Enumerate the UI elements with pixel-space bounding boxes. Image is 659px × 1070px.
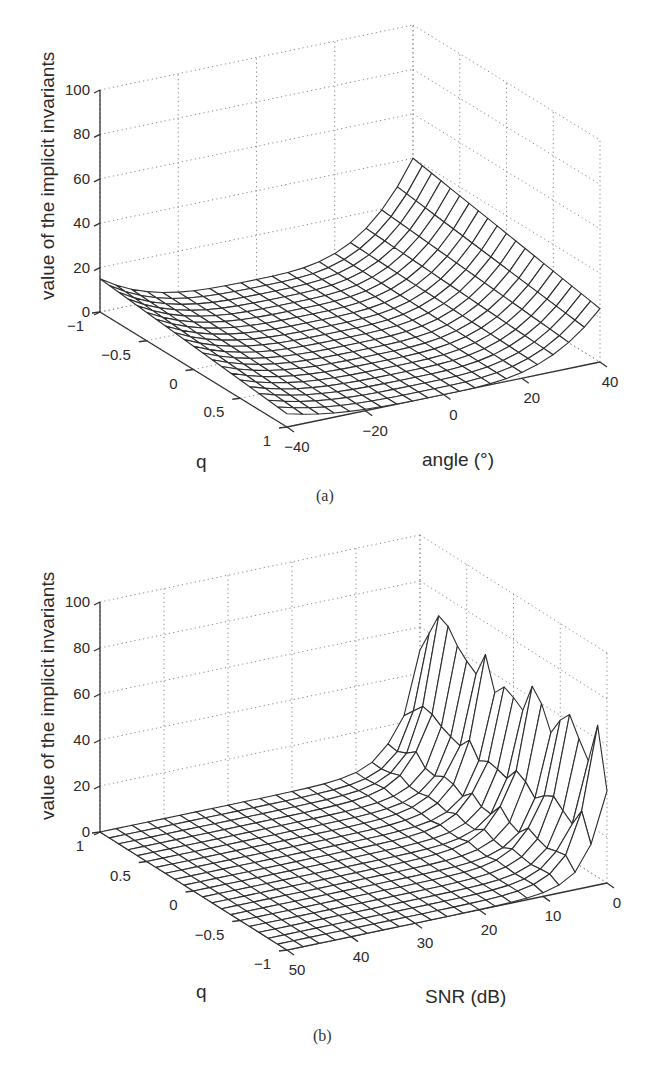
figure-b: 02040608010010.50−0.5−150403020100 value… <box>0 530 659 1070</box>
z-tick-label: 40 <box>73 214 90 231</box>
q-axis-title: q <box>196 981 207 1002</box>
q-tick-label: 0.5 <box>110 867 131 884</box>
q-tick-label: −1 <box>254 955 271 972</box>
q-tick-label: −0.5 <box>195 926 225 943</box>
q-tick-label: −1 <box>67 317 84 334</box>
x-tick-label: 30 <box>417 934 434 951</box>
figure-a: 020406080100−1−0.500.51−40−2002040 value… <box>0 0 659 530</box>
z-axis-title: value of the implicit invariants <box>37 52 58 300</box>
x-tick-label: −20 <box>363 422 388 439</box>
caption-a: (a) <box>316 487 334 505</box>
z-tick-label: 60 <box>73 170 90 187</box>
x-tick-label: 0 <box>613 894 621 911</box>
surface-plot-b: 02040608010010.50−0.5−150403020100 value… <box>0 530 659 1070</box>
x-tick-label: 0 <box>449 406 457 423</box>
z-tick-label: 100 <box>65 81 90 98</box>
z-axis-title: value of the implicit invariants <box>37 572 58 820</box>
x-tick-label: 20 <box>523 389 540 406</box>
z-tick-label: 20 <box>73 259 90 276</box>
q-tick-label: 1 <box>263 432 271 449</box>
caption-b: (b) <box>313 1027 332 1045</box>
z-tick-label: 60 <box>73 685 90 702</box>
x-tick-label: −40 <box>284 438 309 455</box>
z-tick-label: 20 <box>73 777 90 794</box>
q-tick-label: 0 <box>169 375 177 392</box>
q-tick-label: 1 <box>76 837 84 854</box>
x-tick-label: 40 <box>353 948 370 965</box>
z-tick-label: 100 <box>65 593 90 610</box>
q-tick-label: −0.5 <box>101 346 131 363</box>
q-tick-label: 0.5 <box>203 403 224 420</box>
x-tick-label: 20 <box>481 921 498 938</box>
q-tick-label: 0 <box>169 896 177 913</box>
x-tick-label: 40 <box>602 373 619 390</box>
surface-plot-a: 020406080100−1−0.500.51−40−2002040 value… <box>0 0 659 530</box>
q-axis-title: q <box>196 451 207 472</box>
z-tick-label: 80 <box>73 639 90 656</box>
z-tick-label: 40 <box>73 731 90 748</box>
x-tick-label: 50 <box>289 961 306 978</box>
x-tick-label: 10 <box>545 907 562 924</box>
x-axis-title: SNR (dB) <box>425 986 506 1007</box>
x-axis-title: angle (°) <box>422 449 494 470</box>
z-tick-label: 80 <box>73 125 90 142</box>
